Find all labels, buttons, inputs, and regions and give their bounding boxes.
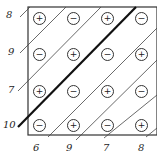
left-label: 7 <box>8 85 14 95</box>
bottom-label: 8 <box>138 143 144 153</box>
left-label: 10 <box>3 120 16 130</box>
minus-cell: − <box>33 119 46 132</box>
left-label: 8 <box>6 10 12 20</box>
left-label: 9 <box>8 47 14 57</box>
bottom-label: 7 <box>103 143 109 153</box>
plus-cell: + <box>67 48 80 61</box>
plus-cell: + <box>67 119 80 132</box>
minus-cell: − <box>33 48 46 61</box>
minus-cell: − <box>135 12 148 25</box>
bottom-label: 9 <box>66 143 72 153</box>
plus-cell: + <box>33 85 46 98</box>
plus-cell: + <box>33 12 46 25</box>
plus-cell: + <box>135 119 148 132</box>
plus-cell: + <box>135 48 148 61</box>
minus-cell: − <box>135 85 148 98</box>
grid-lines <box>0 0 157 162</box>
plus-cell: + <box>101 12 114 25</box>
minus-cell: − <box>101 119 114 132</box>
minus-cell: − <box>101 48 114 61</box>
bottom-label: 6 <box>33 143 39 153</box>
minus-cell: − <box>67 85 80 98</box>
plus-cell: + <box>101 85 114 98</box>
minus-cell: − <box>67 12 80 25</box>
